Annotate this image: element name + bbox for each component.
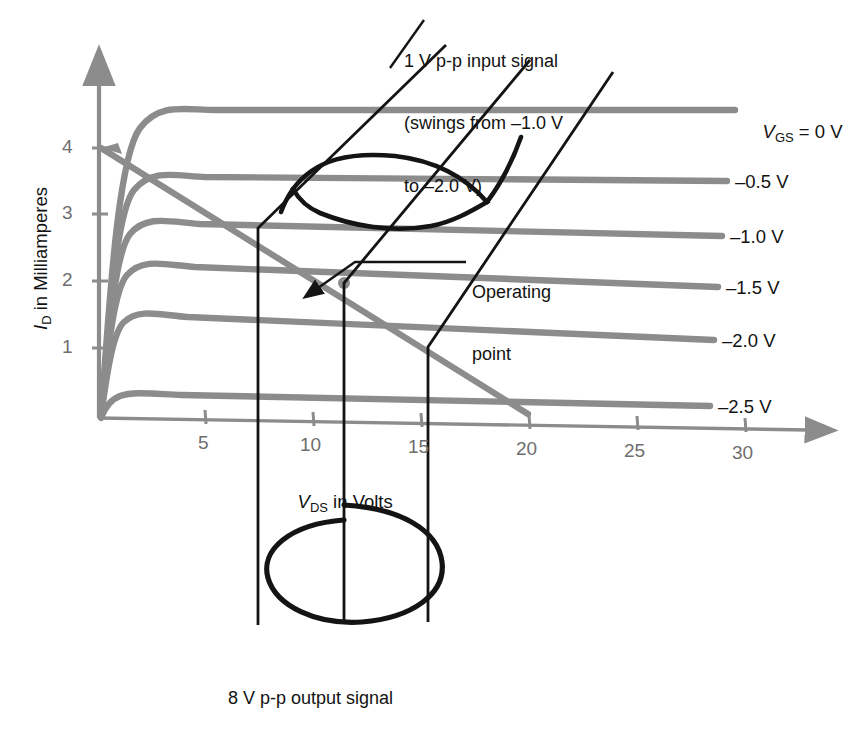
x-tick-label-15: 15: [408, 436, 429, 458]
x-tick-label-25: 25: [624, 440, 645, 462]
curve-label-minus0_5: –0.5 V: [735, 171, 789, 192]
curve-vgs-minus2_5: [101, 393, 710, 418]
operating-point-annotation: Operating point: [472, 240, 551, 407]
y-axis-title: ID in Milliamperes: [30, 187, 51, 330]
input-signal-lead: [281, 189, 293, 212]
y-axis-title-subscript: D: [39, 315, 54, 324]
x-axis-title: VDS in Volts: [277, 470, 393, 534]
x-tick-label-5: 5: [198, 432, 209, 454]
y-tick-label-3: 3: [62, 202, 73, 224]
y-axis-title-symbol: I: [30, 325, 51, 330]
curve-label-vgs-0: VGS = 0 V: [742, 100, 843, 164]
y-tick-label-2: 2: [62, 269, 73, 291]
curve-label-symbol: V: [763, 121, 775, 142]
operating-point-line1: Operating: [472, 282, 551, 303]
input-annotation-line2: (swings from –1.0 V: [404, 113, 563, 134]
chart-figure: ID in Milliamperes 4 3 2 1 5 10 15 20 25…: [0, 0, 851, 740]
x-axis-title-subscript: DS: [310, 500, 328, 515]
y-axis-title-rest: in Milliamperes: [30, 187, 51, 316]
input-annotation-line3: to –2.0 V): [404, 176, 563, 197]
curve-label-minus1_0: –1.0 V: [730, 226, 784, 247]
curve-label-minus1_5: –1.5 V: [726, 277, 780, 298]
output-annotation-line1: 8 V p-p output signal: [228, 688, 393, 709]
curve-label-subscript: GS: [775, 130, 794, 145]
output-signal-annotation: 8 V p-p output signal (swings from 7 V t…: [228, 646, 393, 740]
curve-label-minus2_5: –2.5 V: [718, 396, 772, 417]
y-tick-label-1: 1: [62, 336, 73, 358]
x-axis-title-symbol: V: [298, 491, 310, 512]
operating-point-line2: point: [472, 344, 551, 365]
x-axis-title-rest: in Volts: [328, 491, 393, 512]
curve-label-minus2_0: –2.0 V: [722, 330, 776, 351]
input-signal-annotation: 1 V p-p input signal (swings from –1.0 V…: [404, 9, 563, 239]
input-annotation-line1: 1 V p-p input signal: [404, 51, 563, 72]
y-tick-label-4: 4: [62, 136, 73, 158]
x-tick-label-10: 10: [300, 434, 321, 456]
x-tick-label-20: 20: [516, 438, 537, 460]
curve-label-value: = 0 V: [794, 121, 843, 142]
x-tick-label-30: 30: [732, 442, 753, 464]
